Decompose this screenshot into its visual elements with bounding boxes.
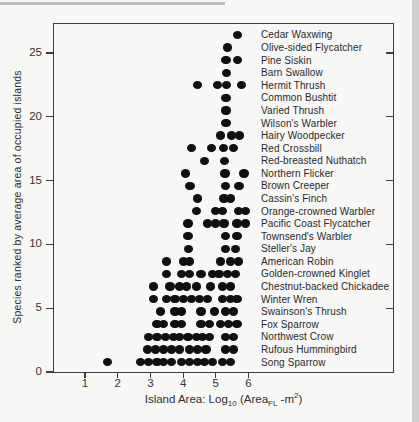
data-point xyxy=(232,295,241,303)
x-axis-title-text: (Area xyxy=(237,393,268,405)
x-axis-tick-label: 4 xyxy=(174,377,192,389)
species-label: Cedar Waxwing xyxy=(261,29,333,40)
x-axis-title-text: -m xyxy=(277,393,294,405)
species-label: Varied Thrush xyxy=(261,105,324,116)
data-point xyxy=(216,131,225,139)
scan-artifact-right xyxy=(412,0,419,422)
y-axis-tick xyxy=(46,116,53,117)
data-point xyxy=(222,69,231,77)
species-label: Fox Sparrow xyxy=(261,319,319,330)
data-point xyxy=(219,219,228,227)
x-axis-title-text: Island Area: Log xyxy=(145,393,228,405)
species-label: Orange-crowned Warbler xyxy=(261,206,375,217)
x-axis-tick-label: 6 xyxy=(240,377,258,389)
species-label: Hairy Woodpecker xyxy=(261,130,345,141)
data-point xyxy=(231,245,240,253)
species-label: Northwest Crow xyxy=(261,331,334,342)
x-axis-tick-label: 3 xyxy=(141,377,159,389)
data-point xyxy=(221,94,230,102)
data-point xyxy=(196,307,205,315)
data-point xyxy=(183,219,192,227)
data-point xyxy=(177,307,186,315)
species-label: Wilson's Warbler xyxy=(261,118,337,129)
data-point xyxy=(221,56,230,64)
x-axis-title-subscript: FL xyxy=(268,399,277,408)
species-label: Pacific Coast Flycatcher xyxy=(261,218,371,229)
species-label: Olive-sided Flycatcher xyxy=(261,42,362,53)
data-point xyxy=(156,307,165,315)
species-label: Golden-crowned Kinglet xyxy=(261,268,370,279)
species-label: Cassin's Finch xyxy=(261,193,327,204)
data-point xyxy=(226,282,235,290)
data-point xyxy=(229,345,238,353)
y-axis-tick-label: 25 xyxy=(16,46,42,58)
y-axis-tick xyxy=(46,180,53,181)
species-label: Common Bushtit xyxy=(261,92,336,103)
data-point xyxy=(165,282,174,290)
data-point xyxy=(185,182,194,190)
data-point xyxy=(220,169,229,177)
species-label: Winter Wren xyxy=(261,294,317,305)
x-axis-title: Island Area: Log10 (AreaFL -m2) xyxy=(53,391,394,408)
data-point xyxy=(175,345,184,353)
data-point xyxy=(232,232,241,240)
species-label: Rufous Hummingbird xyxy=(261,344,357,355)
data-point xyxy=(231,270,240,278)
right-axis-tick xyxy=(386,116,393,117)
data-point xyxy=(234,257,243,265)
species-label: Steller's Jay xyxy=(261,243,316,254)
data-point xyxy=(241,207,250,215)
data-point xyxy=(226,194,235,202)
species-label: Townsend's Warbler xyxy=(261,231,352,242)
species-label: Pine Siskin xyxy=(261,55,312,66)
right-axis-tick xyxy=(386,308,393,309)
data-point xyxy=(232,320,241,328)
data-point xyxy=(193,194,202,202)
species-label: Brown Creeper xyxy=(261,180,330,191)
data-point xyxy=(181,169,190,177)
species-label: Swainson's Thrush xyxy=(261,306,347,317)
data-point xyxy=(200,157,209,165)
right-axis-tick xyxy=(386,52,393,53)
data-point xyxy=(216,257,225,265)
data-point xyxy=(182,282,191,290)
data-point xyxy=(223,43,232,51)
data-point xyxy=(201,345,210,353)
x-axis-tick-label: 1 xyxy=(76,377,94,389)
data-point xyxy=(192,282,201,290)
right-axis-tick xyxy=(386,244,393,245)
data-point xyxy=(162,257,171,265)
figure-scatter-plot: 1234560510152025Cedar WaxwingOlive-sided… xyxy=(0,0,419,422)
species-label: Barn Swallow xyxy=(261,67,323,78)
y-axis-tick xyxy=(46,52,53,53)
y-axis-tick xyxy=(46,371,53,372)
data-point xyxy=(205,333,214,341)
x-axis-title-subscript: 10 xyxy=(228,399,237,408)
species-label: Hermit Thrush xyxy=(261,80,325,91)
data-point xyxy=(210,307,219,315)
data-point xyxy=(220,157,229,165)
data-point xyxy=(221,245,230,253)
data-point xyxy=(149,282,158,290)
data-point xyxy=(196,270,205,278)
right-axis-tick xyxy=(386,180,393,181)
y-axis-title: Species ranked by average area of occupi… xyxy=(11,70,23,323)
data-point xyxy=(241,219,250,227)
data-point xyxy=(185,257,194,265)
species-label: Red-breasted Nuthatch xyxy=(261,155,367,166)
data-point xyxy=(221,106,230,114)
species-label: Northern Flicker xyxy=(261,168,334,179)
species-label: Red Crossbill xyxy=(261,143,322,154)
data-point xyxy=(192,207,201,215)
species-label: Chestnut-backed Chickadee xyxy=(261,281,389,292)
y-axis-tick xyxy=(46,308,53,309)
data-point xyxy=(183,232,192,240)
data-point xyxy=(235,131,244,139)
x-axis-title-text: ) xyxy=(298,393,302,405)
species-label: American Robin xyxy=(261,256,334,267)
x-axis-tick-label: 2 xyxy=(109,377,127,389)
species-label: Song Sparrow xyxy=(261,357,326,368)
x-axis-tick-label: 5 xyxy=(207,377,225,389)
y-axis-tick-label: 0 xyxy=(16,365,42,377)
data-point xyxy=(234,182,243,190)
